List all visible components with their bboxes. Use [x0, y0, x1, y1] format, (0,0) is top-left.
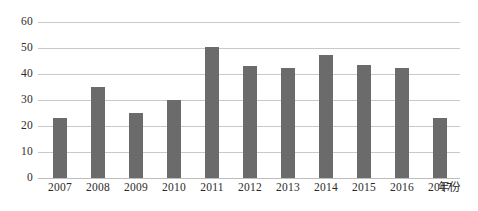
y-tick-label: 40: [3, 68, 33, 80]
axis-baseline: [38, 178, 460, 179]
bar-slot: [79, 22, 117, 178]
bar-slot: [117, 22, 155, 178]
y-axis: 0102030405060: [0, 22, 33, 178]
bar: [91, 87, 105, 178]
y-tick-label: 20: [3, 120, 33, 132]
bar-chart: 0102030405060 20072008200920102011201220…: [0, 0, 478, 211]
x-tick-label: 2012: [231, 181, 269, 195]
bar-slot: [307, 22, 345, 178]
x-tick-label: 2016: [383, 181, 421, 195]
bar: [433, 118, 447, 178]
x-tick-label: 2009: [117, 181, 155, 195]
x-axis-title: 年份: [438, 181, 460, 195]
bar-slot: [269, 22, 307, 178]
x-tick-label: 2010: [155, 181, 193, 195]
y-tick-label: 30: [3, 94, 33, 106]
bar: [281, 68, 295, 179]
bar: [205, 47, 219, 178]
x-tick-label: 2015: [345, 181, 383, 195]
bar: [357, 65, 371, 178]
y-tick-label: 0: [3, 172, 33, 184]
bar-slot: [155, 22, 193, 178]
bar-slot: [41, 22, 79, 178]
bar: [319, 55, 333, 179]
bars-layer: [38, 22, 460, 178]
y-tick-label: 60: [3, 16, 33, 28]
x-tick-label: 2011: [193, 181, 231, 195]
bar: [167, 100, 181, 178]
bar: [243, 66, 257, 178]
bar: [129, 113, 143, 178]
bar-slot: [231, 22, 269, 178]
x-tick-label: 2013: [269, 181, 307, 195]
bar-slot: [383, 22, 421, 178]
x-tick-label: 2008: [79, 181, 117, 195]
x-tick-label: 2014: [307, 181, 345, 195]
x-axis: 2007200820092010201120122013201420152016…: [38, 181, 460, 203]
bar-slot: [345, 22, 383, 178]
bar-slot: [421, 22, 459, 178]
bar-slot: [193, 22, 231, 178]
bar: [395, 68, 409, 179]
bar: [53, 118, 67, 178]
x-tick-label: 2007: [41, 181, 79, 195]
y-tick-label: 50: [3, 42, 33, 54]
y-tick-label: 10: [3, 146, 33, 158]
